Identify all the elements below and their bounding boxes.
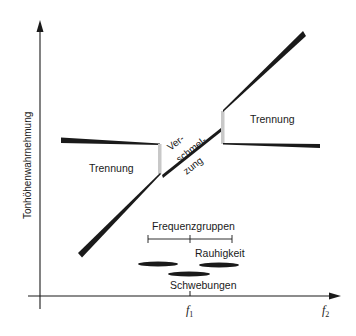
left-horizontal-line bbox=[61, 138, 160, 146]
roughness-band-right bbox=[199, 262, 239, 267]
right-horizontal-line bbox=[223, 143, 320, 148]
left-separation-label: Trennung bbox=[89, 162, 134, 174]
critical-bands-label: Frequenzgruppen bbox=[152, 220, 235, 232]
roughness-label: Rauhigkeit bbox=[195, 247, 245, 259]
pitch-perception-diagram: Tonhöhenwahrnehmung Trennung Trennung Ve… bbox=[0, 0, 356, 336]
y-axis bbox=[37, 20, 44, 309]
left-transition bbox=[158, 144, 162, 174]
f2-label: f2 bbox=[322, 303, 329, 319]
f1-label: f1 bbox=[186, 303, 193, 319]
y-axis-label: Tonhöhenwahrnehmung bbox=[22, 112, 33, 219]
y-axis-arrow-icon bbox=[37, 20, 44, 32]
roughness-band-left bbox=[138, 261, 178, 266]
right-separation-label: Trennung bbox=[250, 113, 295, 125]
beats-label: Schwebungen bbox=[170, 279, 237, 291]
critical-band-bracket bbox=[148, 235, 232, 243]
right-transition bbox=[221, 111, 225, 144]
lower-diagonal-line bbox=[78, 173, 161, 258]
x-axis-arrow-icon bbox=[329, 293, 341, 300]
beats-band bbox=[168, 271, 210, 276]
upper-diagonal-line bbox=[223, 31, 306, 112]
x-axis bbox=[28, 291, 341, 300]
